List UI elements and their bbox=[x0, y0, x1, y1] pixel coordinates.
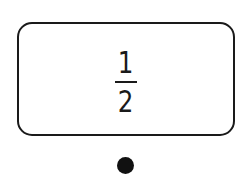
fraction-card[interactable]: 1 2 bbox=[17, 22, 235, 136]
fraction-numerator: 1 bbox=[118, 49, 134, 77]
fraction-bar bbox=[115, 81, 137, 83]
fraction: 1 2 bbox=[19, 49, 233, 116]
fraction-denominator: 2 bbox=[118, 88, 134, 116]
dot-icon bbox=[117, 157, 134, 174]
